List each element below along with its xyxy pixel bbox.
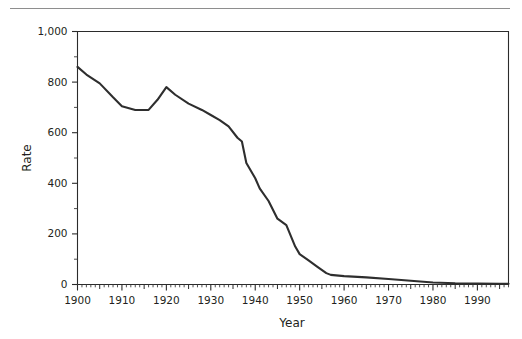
x-tick-label: 1940	[242, 294, 269, 306]
y-tick-label: 1,000	[37, 25, 67, 37]
x-tick-label: 1980	[420, 294, 447, 306]
chart-figure: 02004006008001,000 190019101920193019401…	[0, 0, 522, 339]
y-tick-label: 800	[47, 76, 67, 88]
x-tick-label: 1960	[331, 294, 358, 306]
tick-marks-group	[72, 32, 509, 291]
x-axis-title: Year	[278, 316, 304, 330]
x-tick-labels-group: 1900191019201930194019501960197019801990	[64, 294, 491, 306]
y-tick-labels-group: 02004006008001,000	[37, 25, 67, 290]
y-axis-title: Rate	[20, 144, 34, 172]
x-tick-label: 1970	[375, 294, 402, 306]
x-tick-label: 1900	[64, 294, 91, 306]
x-tick-label: 1990	[464, 294, 491, 306]
x-tick-label: 1910	[109, 294, 136, 306]
rate-series-line	[78, 67, 509, 284]
y-tick-label: 0	[61, 278, 68, 290]
axes-group	[78, 32, 509, 285]
y-tick-label: 600	[47, 126, 67, 138]
x-tick-label: 1950	[286, 294, 313, 306]
y-tick-label: 400	[47, 177, 67, 189]
y-tick-label: 200	[47, 227, 67, 239]
line-chart-canvas: 02004006008001,000 190019101920193019401…	[0, 0, 522, 339]
x-tick-label: 1920	[153, 294, 180, 306]
x-tick-label: 1930	[197, 294, 224, 306]
